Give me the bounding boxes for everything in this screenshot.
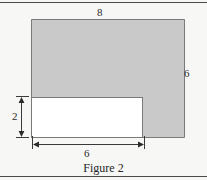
left-dim-arrow-up: [19, 97, 25, 103]
bottom-dim-arrow-left: [33, 142, 39, 148]
figure-container: 8 6 2 6 Figure 2: [0, 0, 207, 180]
dimension-label-right: 6: [184, 68, 190, 79]
bottom-dim-arrow-right: [138, 142, 144, 148]
figure-caption: Figure 2: [0, 161, 207, 176]
notched-rectangle-diagram: [0, 0, 207, 180]
left-dim-arrow-down: [19, 131, 25, 137]
notch-region: [32, 98, 143, 138]
dimension-label-top: 8: [97, 7, 103, 18]
dimension-label-left: 2: [12, 111, 18, 122]
dimension-label-bottom: 6: [84, 148, 90, 159]
